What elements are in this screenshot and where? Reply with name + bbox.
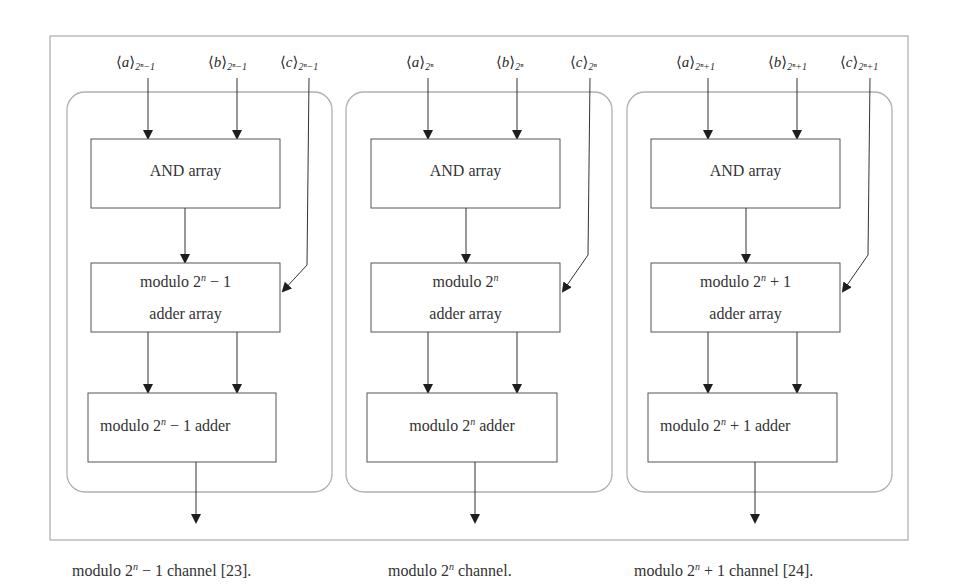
caption-plain-channel: modulo 2n channel. <box>388 561 512 580</box>
var-name: b <box>214 54 222 70</box>
input-a-label: ⟨a⟩2ⁿ−1 <box>116 53 155 72</box>
input-a-label: ⟨a⟩2ⁿ <box>406 53 433 72</box>
var-name: c <box>846 54 853 70</box>
final-adder-label: modulo 2n + 1 adder <box>648 416 837 435</box>
adder-array-label: modulo 2n + 1 adder array <box>651 262 840 330</box>
input-c-label: ⟨c⟩2ⁿ <box>570 53 597 72</box>
adder-array-label: modulo 2n adder array <box>371 262 560 330</box>
adder-array-line1: modulo 2n − 1 <box>91 262 280 298</box>
and-array-label: AND array <box>371 162 560 180</box>
input-a-label: ⟨a⟩2ⁿ+1 <box>676 53 715 72</box>
caption-plus-channel: modulo 2n + 1 channel [24]. <box>634 561 813 580</box>
input-c-arrow <box>563 78 590 291</box>
var-name: c <box>286 54 293 70</box>
adder-array-line2: adder array <box>651 298 840 330</box>
modulus: 2ⁿ−1 <box>298 61 318 72</box>
modulus: 2ⁿ+1 <box>858 61 878 72</box>
modulus: 2ⁿ+1 <box>695 61 715 72</box>
input-c-label: ⟨c⟩2ⁿ−1 <box>280 53 318 72</box>
var-name: a <box>122 54 130 70</box>
and-array-label: AND array <box>651 162 840 180</box>
adder-array-line2: adder array <box>371 298 560 330</box>
input-b-label: ⟨b⟩2ⁿ−1 <box>208 53 247 72</box>
adder-array-line1: modulo 2n + 1 <box>651 262 840 298</box>
var-name: c <box>576 54 583 70</box>
modulus: 2ⁿ <box>515 61 523 72</box>
final-adder-label: modulo 2n − 1 adder <box>88 416 276 435</box>
caption-minus-channel: modulo 2n − 1 channel [23]. <box>72 561 251 580</box>
input-c-arrow <box>843 78 870 291</box>
and-array-label: AND array <box>91 162 280 180</box>
var-name: b <box>774 54 782 70</box>
input-b-label: ⟨b⟩2ⁿ <box>496 53 523 72</box>
input-b-label: ⟨b⟩2ⁿ+1 <box>768 53 807 72</box>
modulus: 2ⁿ+1 <box>787 61 807 72</box>
var-name: b <box>502 54 510 70</box>
modulus: 2ⁿ <box>425 61 433 72</box>
adder-array-line1: modulo 2n <box>371 262 560 298</box>
modulus: 2ⁿ−1 <box>135 61 155 72</box>
input-c-label: ⟨c⟩2ⁿ+1 <box>840 53 878 72</box>
var-name: a <box>412 54 420 70</box>
modulus: 2ⁿ−1 <box>227 61 247 72</box>
var-name: a <box>682 54 690 70</box>
adder-array-label: modulo 2n − 1 adder array <box>91 262 280 330</box>
modulus: 2ⁿ <box>588 61 596 72</box>
input-c-arrow <box>283 78 309 291</box>
final-adder-label: modulo 2n adder <box>367 416 557 435</box>
adder-array-line2: adder array <box>91 298 280 330</box>
